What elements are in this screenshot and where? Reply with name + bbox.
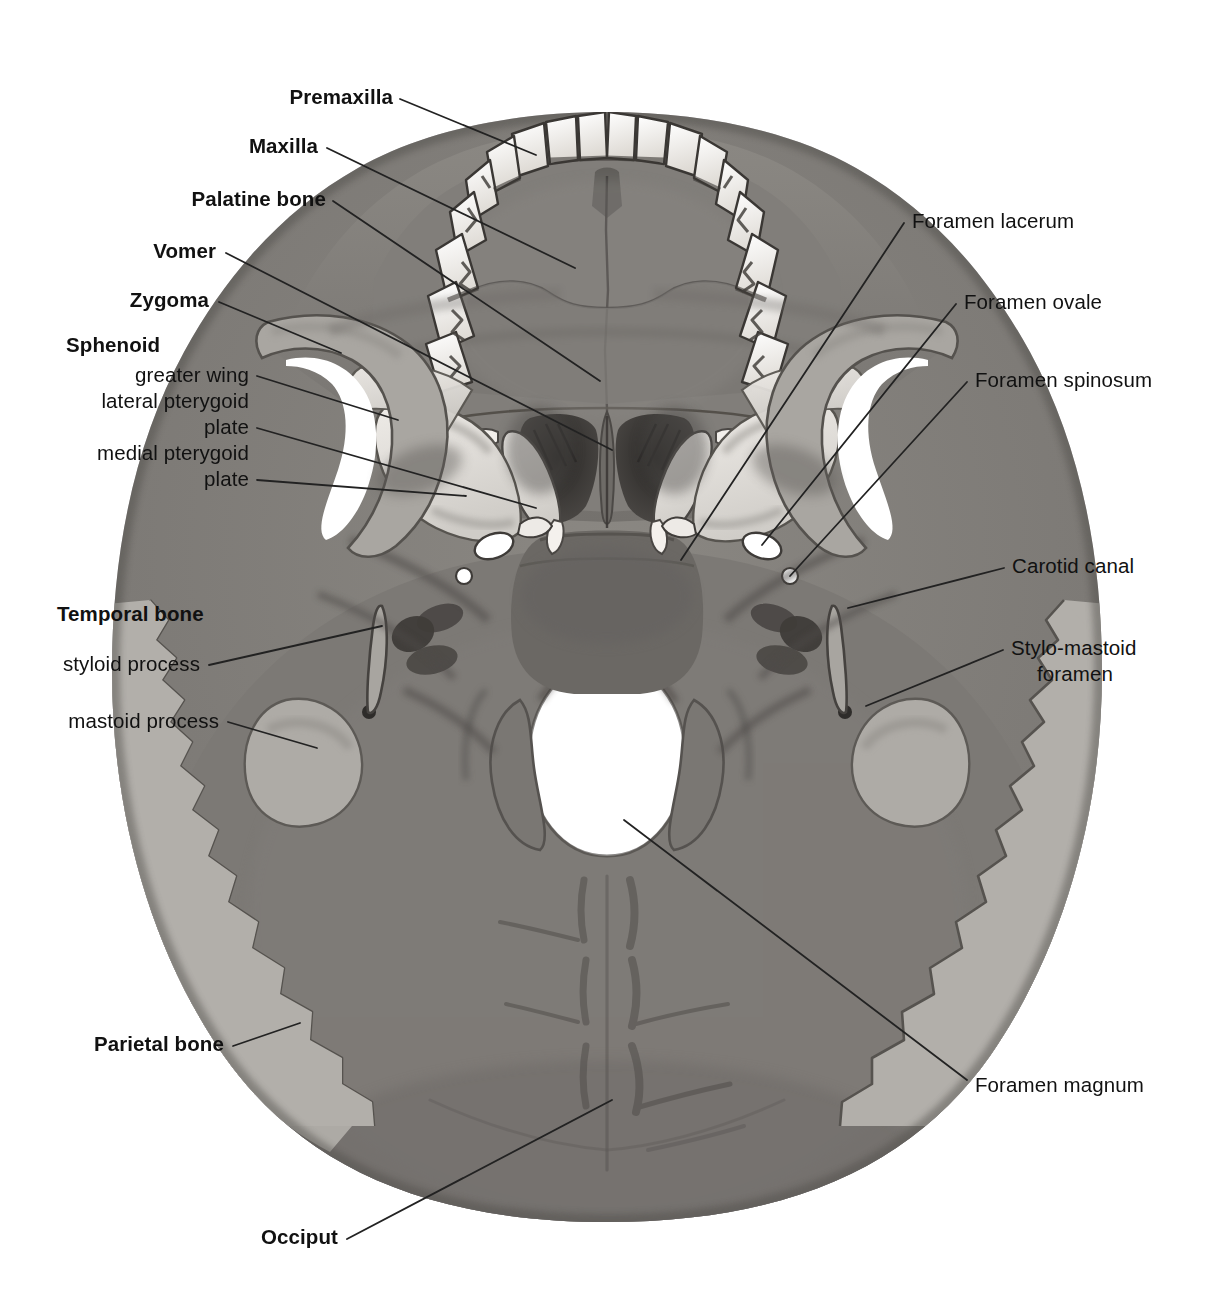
label-carotid-canal: Carotid canal xyxy=(1012,553,1134,579)
label-lateral-pterygoid-plate: plate xyxy=(0,414,249,440)
label-medial-pterygoid-plate: plate xyxy=(0,466,249,492)
label-greater-wing: greater wing xyxy=(0,362,249,388)
label-foramen-ovale: Foramen ovale xyxy=(964,289,1102,315)
label-occiput: Occiput xyxy=(0,1224,338,1250)
label-premaxilla: Premaxilla xyxy=(0,84,393,110)
label-temporal-bone: Temporal bone xyxy=(57,601,204,627)
label-lateral-pterygoid: lateral pterygoid xyxy=(0,388,249,414)
basiocciput xyxy=(511,531,703,695)
label-maxilla: Maxilla xyxy=(0,133,318,159)
label-mastoid-process: mastoid process xyxy=(0,708,219,734)
label-medial-pterygoid: medial pterygoid xyxy=(0,440,249,466)
label-styloid-process: styloid process xyxy=(0,651,200,677)
label-sphenoid: Sphenoid xyxy=(66,332,160,358)
label-stylo-mastoid-foramen-line2: foramen xyxy=(1037,661,1113,687)
label-foramen-lacerum: Foramen lacerum xyxy=(912,208,1074,234)
label-foramen-spinosum: Foramen spinosum xyxy=(975,367,1152,393)
label-palatine-bone: Palatine bone xyxy=(0,186,326,212)
label-vomer: Vomer xyxy=(0,238,216,264)
label-parietal-bone: Parietal bone xyxy=(0,1031,224,1057)
label-stylo-mastoid-foramen-line1: Stylo-mastoid xyxy=(1011,635,1136,661)
label-foramen-magnum: Foramen magnum xyxy=(975,1072,1144,1098)
label-zygoma: Zygoma xyxy=(0,287,209,313)
